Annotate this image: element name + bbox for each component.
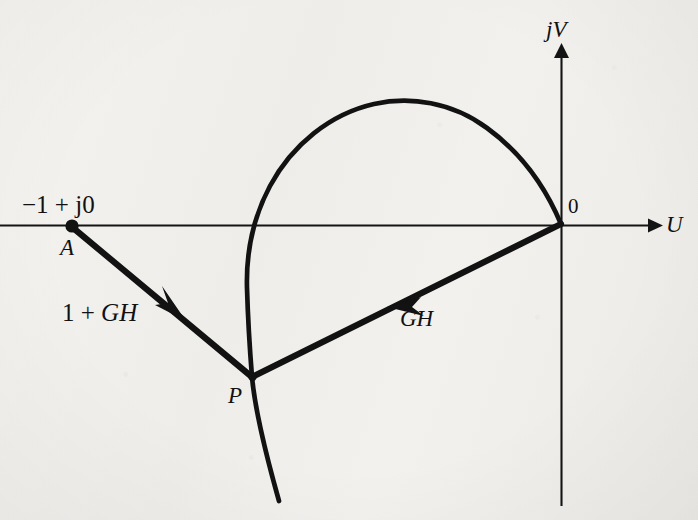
vector-one-plus-gh-label: 1 + GH	[62, 300, 137, 325]
vector-one-plus-gh-label-italic: GH	[101, 299, 137, 326]
point-a-marker	[65, 219, 78, 232]
vector-gh-label: GH	[400, 307, 433, 330]
axis-vertical-label: jV	[546, 18, 566, 41]
point-a-value-label: −1 + j0	[22, 192, 95, 217]
point-p-label: P	[228, 384, 242, 407]
vector-gh	[252, 224, 561, 377]
axis-horizontal-arrowhead	[648, 219, 663, 233]
origin-label: 0	[568, 196, 579, 217]
axis-vertical-arrowhead	[554, 43, 569, 58]
figure-canvas: −1 + j0 A P 1 + GH GH jV U 0	[0, 0, 698, 520]
point-p-marker	[248, 373, 256, 381]
axis-horizontal-label: U	[666, 213, 683, 236]
vector-gh-shaft	[252, 224, 561, 377]
point-a-label: A	[60, 236, 74, 259]
nyquist-diagram	[0, 0, 698, 520]
axis-vertical	[554, 43, 569, 506]
vector-one-plus-gh-label-plain: 1 +	[62, 299, 101, 326]
